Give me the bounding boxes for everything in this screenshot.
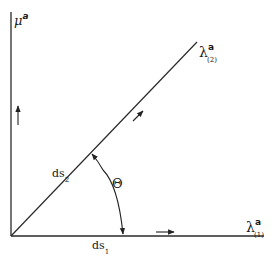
lambda1-label: λa(1)	[246, 219, 264, 237]
diagonal-vector	[11, 42, 197, 236]
mu-axis-label: μa	[14, 13, 29, 27]
ds2-label: ds2	[52, 168, 69, 182]
lambda2-label: λa(2)	[199, 44, 217, 62]
ds1-label: ds1	[92, 240, 109, 254]
diagonal-arrow-icon	[133, 111, 143, 121]
theta-label: Θ	[112, 177, 123, 190]
diagram-canvas	[0, 0, 275, 258]
angle-arc-upper	[92, 154, 103, 170]
